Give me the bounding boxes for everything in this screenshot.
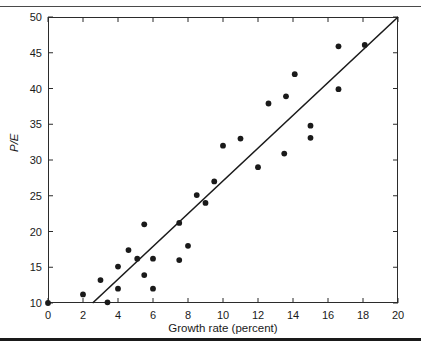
plot-canvas bbox=[48, 17, 398, 303]
x-tick-label: 20 bbox=[392, 310, 404, 321]
data-point bbox=[336, 43, 342, 49]
x-tick-marks-top bbox=[48, 17, 398, 22]
data-point bbox=[98, 277, 104, 283]
y-tick-label: 35 bbox=[20, 119, 42, 130]
figure-container: 101520253035404550 02468101214161820 Gro… bbox=[0, 0, 421, 348]
data-point bbox=[362, 42, 368, 48]
data-point bbox=[150, 286, 156, 292]
data-point bbox=[141, 221, 147, 227]
x-tick-label: 10 bbox=[217, 310, 229, 321]
data-point bbox=[115, 264, 121, 270]
x-axis-title: Growth rate (percent) bbox=[48, 322, 398, 334]
y-tick-label: 10 bbox=[20, 298, 42, 309]
x-tick-label: 14 bbox=[287, 310, 299, 321]
data-point bbox=[45, 300, 51, 306]
top-rule bbox=[0, 6, 421, 7]
y-tick-label: 20 bbox=[20, 226, 42, 237]
data-point bbox=[150, 256, 156, 262]
data-point bbox=[283, 93, 289, 99]
data-point bbox=[105, 299, 111, 305]
data-point bbox=[292, 71, 298, 77]
bottom-rule bbox=[0, 338, 421, 341]
y-tick-label: 30 bbox=[20, 155, 42, 166]
x-tick-label: 4 bbox=[115, 310, 121, 321]
y-axis-title: P/E bbox=[8, 133, 20, 152]
data-point bbox=[336, 86, 342, 92]
y-tick-label: 40 bbox=[20, 83, 42, 94]
data-point bbox=[134, 256, 140, 262]
scatter-points bbox=[45, 42, 368, 306]
data-point bbox=[211, 179, 217, 185]
data-point bbox=[220, 143, 226, 149]
data-point bbox=[266, 101, 272, 107]
data-point bbox=[80, 292, 86, 298]
data-point bbox=[126, 247, 132, 253]
data-point bbox=[255, 164, 261, 170]
data-point bbox=[308, 135, 314, 141]
x-tick-label: 2 bbox=[80, 310, 86, 321]
data-point bbox=[185, 243, 191, 249]
y-tick-label: 50 bbox=[20, 12, 42, 23]
y-tick-label: 45 bbox=[20, 47, 42, 58]
x-tick-label: 6 bbox=[150, 310, 156, 321]
y-tick-label: 25 bbox=[20, 190, 42, 201]
data-point bbox=[203, 200, 209, 206]
data-point bbox=[194, 192, 200, 198]
x-tick-label: 18 bbox=[357, 310, 369, 321]
y-tick-label: 15 bbox=[20, 262, 42, 273]
x-tick-label: 12 bbox=[252, 310, 264, 321]
x-tick-label: 8 bbox=[185, 310, 191, 321]
x-tick-marks bbox=[48, 298, 398, 303]
data-point bbox=[308, 123, 314, 129]
data-point bbox=[176, 257, 182, 263]
data-point bbox=[281, 151, 287, 157]
data-point bbox=[238, 136, 244, 142]
x-tick-label: 0 bbox=[45, 310, 51, 321]
y-tick-marks-right bbox=[393, 17, 398, 303]
y-tick-marks bbox=[48, 17, 53, 303]
data-point bbox=[115, 286, 121, 292]
x-tick-label: 16 bbox=[322, 310, 334, 321]
data-point bbox=[141, 272, 147, 278]
data-point bbox=[176, 220, 182, 226]
